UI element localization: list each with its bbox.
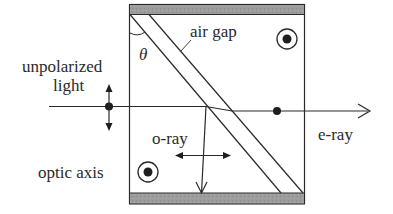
e-ray-polarization-dot	[273, 107, 281, 115]
air-gap-label: air gap	[190, 22, 237, 41]
optic-axis-marker-bottom	[138, 162, 158, 182]
top-mount-bar	[130, 5, 305, 15]
o-ray-label: o-ray	[152, 129, 188, 148]
e-ray-label: e-ray	[318, 125, 353, 144]
optic-axis-label: optic axis	[38, 163, 104, 182]
theta-label: θ	[139, 45, 147, 64]
theta-angle-arc	[130, 32, 145, 35]
input-label-line2: light	[53, 76, 84, 95]
polarizer-diagram: θ air gap unpolarized light e-ray o-ray …	[0, 0, 393, 214]
optic-axis-marker-top	[277, 29, 297, 49]
bottom-mount-bar	[130, 193, 305, 204]
o-ray-path	[196, 107, 207, 194]
e-ray-path	[206, 104, 370, 118]
input-polarization-symbol	[105, 84, 113, 131]
air-gap-line-2	[149, 15, 303, 194]
air-gap-leader	[181, 40, 191, 51]
input-label-line1: unpolarized	[22, 57, 103, 76]
air-gap-line-1	[130, 15, 281, 194]
